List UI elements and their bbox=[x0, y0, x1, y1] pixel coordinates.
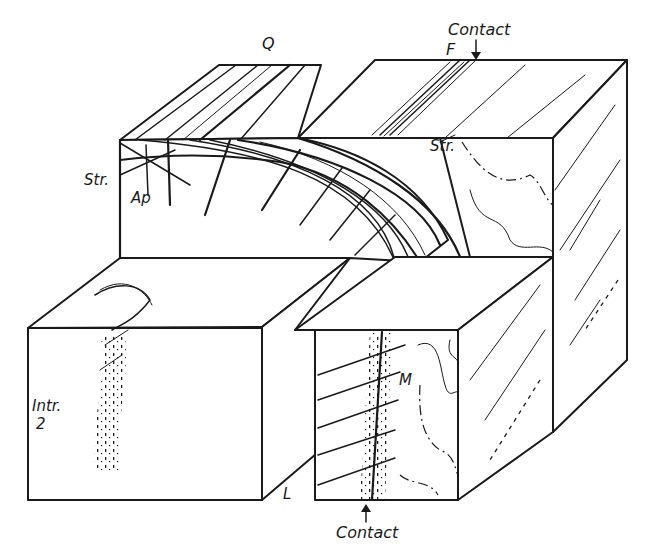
label-intr-2: 2 bbox=[36, 416, 46, 432]
block-diagram: Q F Contact Str. Ap Str. Intr. 2 M L Con… bbox=[0, 0, 654, 555]
label-l: L bbox=[283, 486, 291, 502]
upper-right-face bbox=[440, 135, 553, 257]
diagram-drawing bbox=[0, 0, 654, 555]
label-intr: Intr. bbox=[32, 398, 61, 414]
label-contact-bottom: Contact bbox=[336, 525, 398, 541]
label-f: F bbox=[446, 42, 455, 58]
label-q: Q bbox=[262, 36, 275, 52]
label-str-left: Str. bbox=[84, 172, 109, 188]
label-str-right: Str. bbox=[430, 138, 455, 154]
label-contact-top: Contact bbox=[448, 22, 510, 38]
label-m: M bbox=[399, 372, 412, 388]
label-ap: Ap bbox=[131, 190, 151, 206]
